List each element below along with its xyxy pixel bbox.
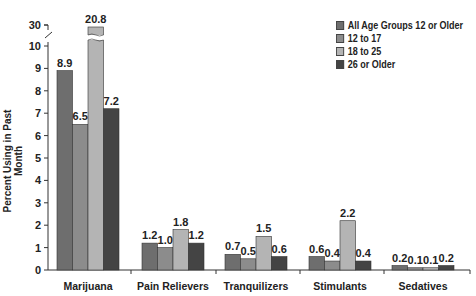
bar [104,109,120,270]
y-tick-label: 2 [35,219,41,231]
bar [439,266,455,270]
x-category-label: Marijuana [63,280,112,292]
legend-label: All Age Groups 12 or Older [348,20,463,31]
legend-swatch-icon [336,60,344,69]
bar-value-label: 1.8 [173,216,188,228]
y-tick-label: 6 [35,130,41,142]
bar [356,261,372,270]
legend-swatch-icon [336,47,344,56]
bar-value-label: 2.2 [340,207,355,219]
bar [309,257,325,270]
legend-item: 18 to 25 [336,45,463,58]
bar-value-label: 0.2 [439,252,454,264]
bar [241,259,257,270]
bar [88,27,104,270]
bar-value-label: 0.4 [356,247,372,259]
y-tick-label: 7 [35,107,41,119]
bar-value-label: 1.2 [189,229,204,241]
bar-value-label: 0.7 [225,240,240,252]
y-tick-label: 10 [29,40,41,52]
bar-value-label: 0.6 [272,243,287,255]
y-tick-label: 3 [35,197,41,209]
bar [225,254,241,270]
x-category-label: Sedatives [398,280,447,292]
bar [57,71,73,270]
category-group: 8.96.520.87.2Marijuana [57,13,119,292]
bar [423,268,439,270]
bar-value-label: 0.5 [241,245,256,257]
bar-value-label: 7.2 [104,95,119,107]
y-tick-label: 0 [35,264,41,276]
bar-value-label: 6.5 [73,110,88,122]
bar [408,268,424,270]
y-tick-label: 4 [35,174,42,186]
bar-value-label: 0.1 [408,254,423,266]
bar-value-label: 0.6 [309,243,324,255]
bar-value-label: 1.0 [158,234,173,246]
legend-swatch-icon [336,34,344,43]
bar [158,248,174,270]
category-group: 1.21.01.81.2Pain Relievers [137,216,209,292]
legend-label: 18 to 25 [348,46,382,57]
bar [73,124,89,270]
legend-swatch-icon [336,21,344,30]
bar [256,236,272,270]
x-category-label: Pain Relievers [137,280,209,292]
y-tick-label: 9 [35,62,41,74]
axis-break-icon [45,32,52,38]
bar [392,266,408,270]
bar [272,257,288,270]
bar [189,243,205,270]
bar-value-label: 20.8 [85,13,106,25]
bar [340,221,356,270]
x-category-label: Stimulants [313,280,367,292]
category-group: 0.60.42.20.4Stimulants [309,207,372,292]
y-tick-label: 8 [35,85,41,97]
legend-item: All Age Groups 12 or Older [336,19,463,32]
legend-label: 26 or Older [348,59,396,70]
category-group: 0.20.10.10.2Sedatives [392,252,454,292]
bar [173,230,189,270]
legend-item: 12 to 17 [336,32,463,45]
bar-value-label: 0.1 [423,254,438,266]
legend-item: 26 or Older [336,58,463,71]
x-category-label: Tranquilizers [224,280,289,292]
bar-value-label: 8.9 [57,57,72,69]
chart-legend: All Age Groups 12 or Older12 to 1718 to … [336,19,476,71]
bar-value-label: 1.5 [256,222,271,234]
bar [142,243,158,270]
y-tick-label: 30 [29,19,41,31]
category-group: 0.70.51.50.6Tranquilizers [224,222,289,292]
bar [325,261,341,270]
bar-value-label: 0.4 [325,247,341,259]
y-tick-label: 5 [35,152,41,164]
bar-value-label: 1.2 [142,229,157,241]
legend-label: 12 to 17 [348,33,382,44]
y-tick-label: 1 [35,242,41,254]
bar-value-label: 0.2 [392,252,407,264]
